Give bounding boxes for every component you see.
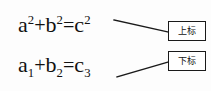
equation-subscript: a1+b2=c3	[18, 52, 91, 78]
term-a-base: a	[18, 12, 28, 37]
callout-label-subscript: 下标	[178, 57, 197, 66]
term-c-superscript: 2	[84, 13, 90, 27]
callout-box-subscript: 下标	[168, 51, 206, 71]
superscript-connector-line	[114, 20, 168, 32]
term-c-subscript: 3	[84, 66, 90, 80]
term-b-base-2: b	[46, 52, 57, 77]
operator-plus-2: +	[34, 54, 45, 76]
term-a-base-2: a	[18, 52, 28, 77]
term-c-base-2: c	[74, 52, 84, 77]
term-c-base: c	[74, 12, 84, 37]
callout-box-superscript: 上标	[168, 21, 206, 41]
figure-canvas: a2+b2=c2 a1+b2=c3 上标 下标	[0, 0, 211, 91]
operator-plus-1: +	[34, 14, 45, 36]
operator-equals-1: =	[63, 14, 74, 36]
equation-superscript: a2+b2=c2	[18, 12, 91, 38]
operator-equals-2: =	[63, 54, 74, 76]
term-b-base: b	[46, 12, 57, 37]
subscript-connector-line	[117, 62, 168, 77]
callout-label-superscript: 上标	[178, 27, 197, 36]
